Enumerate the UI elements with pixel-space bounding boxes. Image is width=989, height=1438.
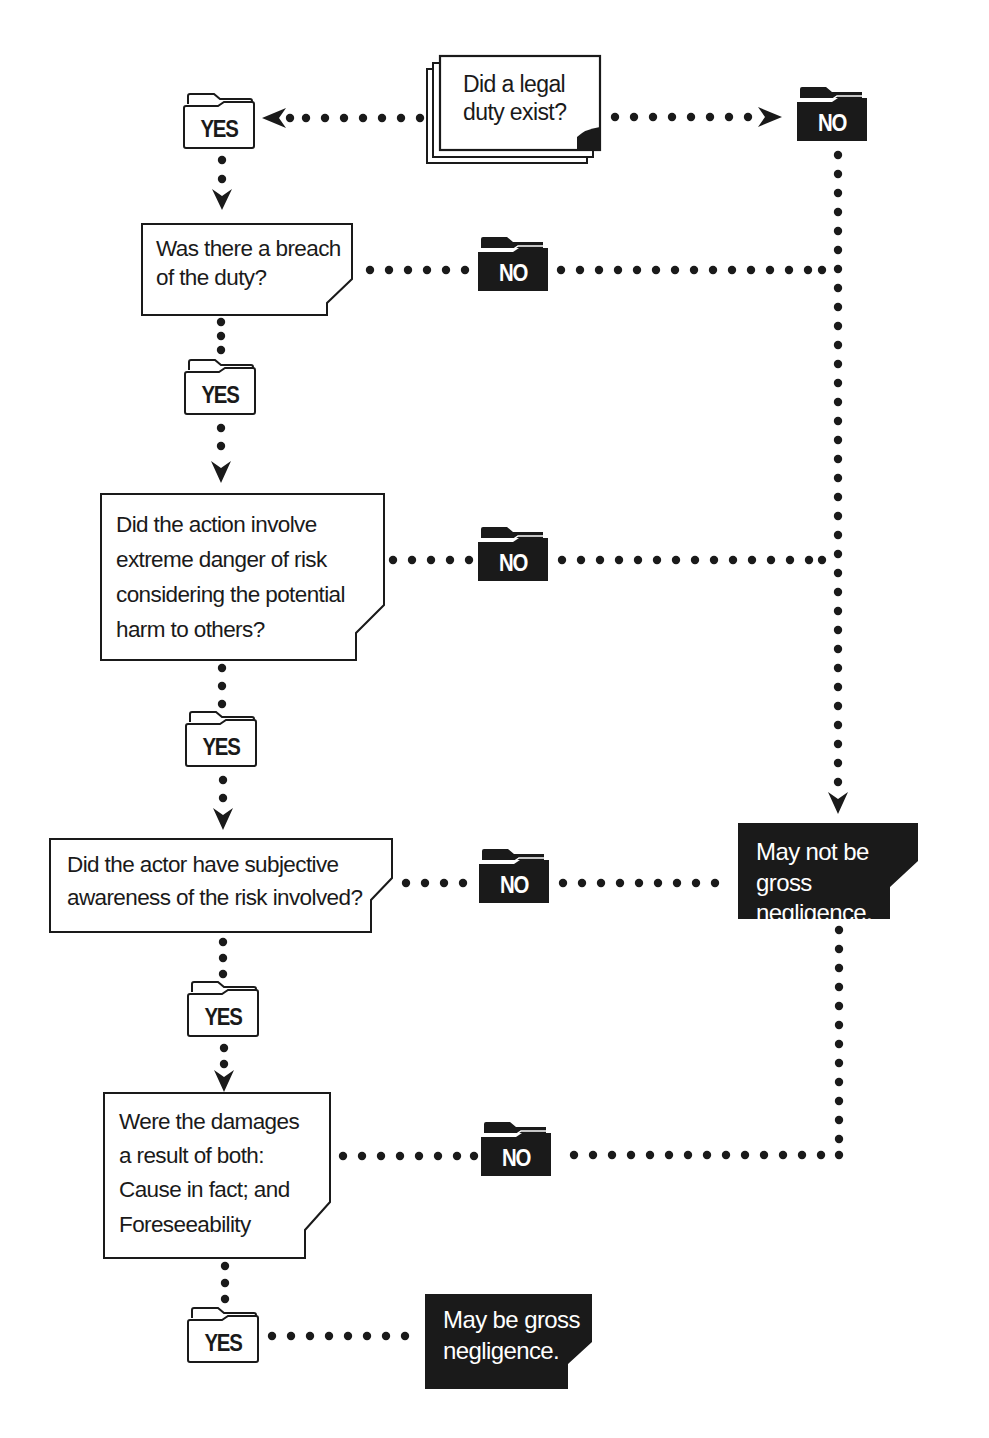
connector-q3-to-yes-3 [218, 664, 226, 708]
connector-yes-4-to-q5 [214, 1044, 234, 1092]
no-label: NO [801, 109, 862, 137]
outcome-text: May not be gross negligence. [756, 837, 918, 929]
outcome-may-not-be-gross-negligence: May not be gross negligence. [738, 823, 918, 919]
question-box-damages: Were the damages a result of both: Cause… [103, 1092, 331, 1259]
no-folder-5: NO [480, 1121, 552, 1177]
yes-folder-2: YES [183, 358, 257, 416]
no-label: NO [483, 871, 544, 899]
connector-yes-5-to-outcome [268, 1332, 409, 1340]
connector-no-5-to-trunk [570, 1151, 825, 1159]
connector-q2-to-yes-2 [217, 318, 225, 354]
yes-folder-4: YES [186, 980, 260, 1038]
arrow-right-icon [758, 107, 782, 127]
connector-q3-to-no-3 [389, 556, 473, 564]
yes-label: YES [192, 1003, 255, 1031]
question-box-subjective-awareness: Did the actor have subjective awareness … [49, 838, 393, 933]
arrow-down-icon [214, 1070, 234, 1092]
connector-no-2-to-trunk [557, 266, 826, 274]
arrow-left-icon [262, 108, 286, 128]
connector-q4-to-no-4 [402, 879, 467, 887]
connector-no-4-to-outcome [559, 879, 719, 887]
outcome-text: May be gross negligence. [443, 1305, 580, 1366]
yes-folder-5: YES [186, 1306, 260, 1364]
no-folder-2: NO [477, 236, 549, 292]
question-text: Did the action involve extreme danger of… [116, 507, 345, 647]
yes-folder-3: YES [184, 710, 258, 768]
yes-label: YES [192, 1329, 255, 1357]
connector-no-3-to-trunk [558, 556, 826, 564]
connector-q5-to-yes-5 [221, 1262, 229, 1303]
no-label: NO [482, 259, 543, 287]
no-folder-3: NO [477, 526, 549, 582]
start-question-card: Did a legal duty exist? [425, 55, 605, 167]
no-label: NO [482, 549, 543, 577]
connector-q5-to-no-5 [339, 1152, 478, 1160]
start-question-text: Did a legal duty exist? [463, 71, 566, 126]
yes-label: YES [188, 115, 251, 143]
question-box-extreme-danger: Did the action involve extreme danger of… [100, 493, 385, 661]
yes-label: YES [189, 381, 252, 409]
no-folder-1: NO [796, 86, 868, 142]
arrow-down-icon [828, 792, 848, 814]
outcome-may-be-gross-negligence: May be gross negligence. [425, 1294, 592, 1389]
no-folder-4: NO [478, 848, 550, 904]
connector-lower-trunk [835, 926, 843, 1159]
connector-q4-to-yes-4 [219, 938, 227, 978]
connector-start-to-no-1 [611, 107, 782, 127]
question-text: Was there a breach of the duty? [156, 234, 341, 293]
question-text: Did the actor have subjective awareness … [67, 849, 362, 914]
connector-yes-3-to-q4 [213, 776, 233, 830]
connector-no-trunk [828, 151, 848, 814]
arrow-down-icon [212, 189, 232, 210]
connector-q2-to-no-2 [366, 266, 469, 274]
connector-yes-1-to-q2 [212, 156, 232, 210]
yes-label: YES [190, 733, 253, 761]
arrow-down-icon [213, 808, 233, 830]
yes-folder-1: YES [182, 92, 256, 150]
question-text: Were the damages a result of both: Cause… [119, 1105, 299, 1242]
connector-yes-2-to-q3 [211, 424, 231, 483]
connector-start-to-yes-1 [262, 108, 424, 128]
question-box-breach: Was there a breach of the duty? [141, 223, 353, 316]
arrow-down-icon [211, 461, 231, 483]
no-label: NO [485, 1144, 546, 1172]
